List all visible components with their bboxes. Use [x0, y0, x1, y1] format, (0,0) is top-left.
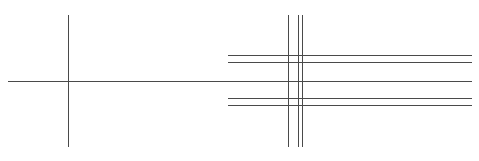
- line-diagram: [0, 0, 479, 161]
- line-diagram-canvas: [0, 0, 479, 161]
- left-cross-group: [8, 15, 472, 147]
